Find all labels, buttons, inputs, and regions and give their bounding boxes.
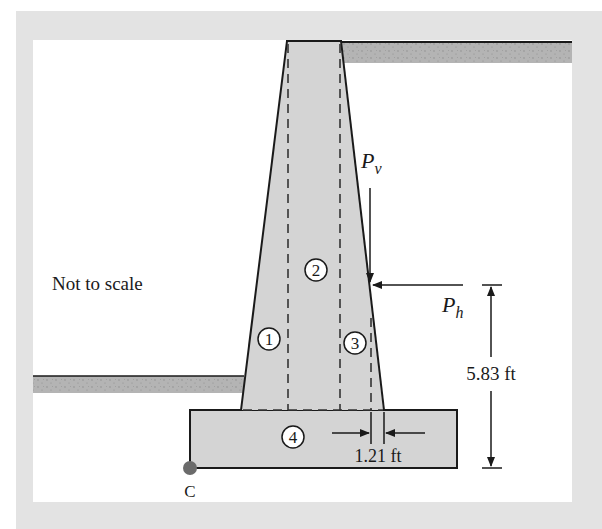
not-to-scale-note: Not to scale — [52, 273, 143, 294]
svg-text:4: 4 — [289, 428, 298, 447]
region-label-4: 4 — [282, 426, 304, 448]
point-c-marker — [183, 461, 197, 475]
region-label-1: 1 — [258, 328, 280, 350]
base-slab — [190, 410, 457, 468]
svg-text:1: 1 — [265, 330, 274, 349]
retaining-wall-diagram: 1 2 3 4 Not to scale Pv Ph 5.83 ft 1.21 … — [0, 0, 602, 529]
point-c-label: C — [184, 482, 195, 501]
region-label-2: 2 — [305, 259, 327, 281]
offset-dimension-label: 1.21 ft — [355, 446, 402, 466]
svg-text:3: 3 — [351, 334, 360, 353]
force-pv-label: Pv — [360, 148, 382, 177]
soil-right — [340, 42, 572, 63]
force-ph-label: Ph — [441, 292, 463, 321]
region-label-3: 3 — [344, 332, 366, 354]
soil-left — [33, 376, 244, 393]
svg-text:2: 2 — [312, 261, 321, 280]
height-dimension-label: 5.83 ft — [466, 363, 516, 384]
